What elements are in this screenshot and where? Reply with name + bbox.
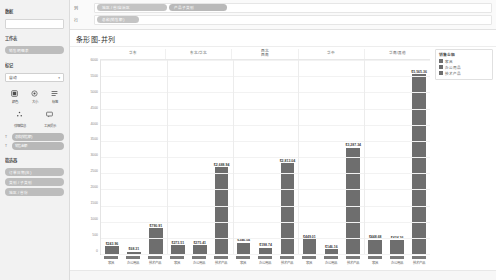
x-axis-label[interactable]: 办公用品 <box>320 255 342 268</box>
rows-shelf-track[interactable]: 总和(销售额) <box>94 15 492 25</box>
x-axis-label-swatch-icon <box>104 256 118 259</box>
gridline <box>101 60 430 61</box>
marks-type-value: 自动 <box>9 75 17 80</box>
marks-field-row[interactable]: T 总和(销售额) <box>5 133 64 141</box>
x-axis-label[interactable]: 办公用品 <box>386 255 408 268</box>
legend-title: 销售金额 <box>439 52 489 57</box>
filter-pill[interactable]: 地区 / 省份 <box>5 188 64 196</box>
x-axis-label[interactable]: 家具 <box>364 255 386 268</box>
gridline <box>101 254 430 255</box>
size-icon <box>30 89 39 98</box>
group-header[interactable]: 华中 <box>299 49 365 59</box>
y-axis-tick: 3000 <box>90 154 98 157</box>
x-axis-label[interactable]: 家具 <box>100 255 122 268</box>
x-axis: 家具办公用品技术产品家具办公用品技术产品家具办公用品技术产品家具办公用品技术产品… <box>100 254 430 268</box>
marks-button-tooltip[interactable] <box>35 109 64 120</box>
group-header[interactable]: 西北 西南 <box>232 49 298 59</box>
bar-value-label: $5,565.36 <box>411 70 427 74</box>
bar[interactable] <box>412 74 426 254</box>
x-axis-label-swatch-icon <box>214 256 228 259</box>
marks-button-size-label: 大小 <box>32 99 38 104</box>
plot-body: 6000550050004500400035003000250020001500… <box>74 60 430 254</box>
x-axis-label-text: 办公用品 <box>259 260 271 265</box>
bar[interactable] <box>281 163 295 254</box>
group-header[interactable]: 华东 <box>100 49 166 59</box>
marks-button-text[interactable]: 标签 <box>45 88 64 105</box>
x-axis-label[interactable]: 技术产品 <box>144 255 166 268</box>
bar-value-label: $146.16 <box>325 245 338 249</box>
bar[interactable] <box>215 167 229 254</box>
x-axis-label-swatch-icon <box>258 256 272 259</box>
group-header[interactable]: 东北/华北 <box>166 49 232 59</box>
filters-section-label: 筛选器 <box>5 157 64 163</box>
filter-pill[interactable]: 订单日期(年) <box>5 168 64 176</box>
chevron-down-icon: ▾ <box>58 76 60 80</box>
x-axis-label-text: 技术产品 <box>149 260 161 265</box>
marks-button-detail[interactable] <box>5 109 34 120</box>
x-axis-label[interactable]: 技术产品 <box>210 255 232 268</box>
legend-item[interactable]: 技术产品 <box>439 71 489 76</box>
marks-field-pill[interactable]: 销售金额 <box>12 142 64 150</box>
sheets-section-label: 工作表 <box>5 35 64 41</box>
bar[interactable] <box>390 240 404 254</box>
legend-item[interactable]: 家具 <box>439 59 489 64</box>
x-axis-label[interactable]: 办公用品 <box>254 255 276 268</box>
page-title: 条形图-并列 <box>76 34 490 44</box>
x-axis-label[interactable]: 家具 <box>298 255 320 268</box>
legend-swatch-icon <box>439 71 443 75</box>
x-axis-label[interactable]: 办公用品 <box>122 255 144 268</box>
y-axis-tick: 4500 <box>90 107 98 110</box>
gridline <box>101 109 430 110</box>
marks-button-color[interactable]: 颜色 <box>5 88 24 105</box>
filter-pill[interactable]: 类别 / 子类别 <box>5 178 64 186</box>
gridline <box>101 173 430 174</box>
bar-value-label: $2,813.04 <box>280 159 296 163</box>
columns-shelf-track[interactable]: 地区 / 省/自治区 产品子类别 <box>94 3 492 13</box>
field-type-tag: T <box>5 135 10 139</box>
marks-section-label: 标记 <box>5 62 64 68</box>
x-axis-label[interactable]: 家具 <box>232 255 254 268</box>
rows-shelf-pill[interactable]: 总和(销售额) <box>97 16 139 24</box>
marks-field-pill[interactable]: 总和(销售额) <box>12 133 64 141</box>
filter-pill-list: 订单日期(年) 类别 / 子类别 地区 / 省份 <box>5 168 64 198</box>
x-axis-label[interactable]: 技术产品 <box>276 255 298 268</box>
x-axis-label[interactable]: 技术产品 <box>342 255 364 268</box>
detail-icon <box>15 110 24 119</box>
x-axis-label[interactable]: 办公用品 <box>188 255 210 268</box>
data-section-label: 数据 <box>5 8 64 14</box>
x-axis-label-swatch-icon <box>302 256 316 259</box>
legend-items: 家具办公用品技术产品 <box>439 59 489 76</box>
y-axis-tick: 500 <box>92 234 98 237</box>
marks-type-select[interactable]: 自动 ▾ <box>5 73 64 82</box>
marks-field-row[interactable]: T 销售金额 <box>5 142 64 150</box>
x-axis-label-text: 办公用品 <box>325 260 337 265</box>
x-axis-label-text: 技术产品 <box>347 260 359 265</box>
x-axis-label-swatch-icon <box>170 256 184 259</box>
bar-value-label: $198.74 <box>259 243 272 247</box>
marks-button-size[interactable]: 大小 <box>25 88 44 105</box>
bar[interactable] <box>149 228 163 254</box>
bar-value-label: $2,688.94 <box>214 163 230 167</box>
x-axis-label[interactable]: 技术产品 <box>408 255 430 268</box>
bar[interactable] <box>105 246 119 254</box>
legend: 销售金额 家具办公用品技术产品 <box>435 49 493 80</box>
group-header[interactable]: 华南/其他 <box>365 49 430 59</box>
chart-canvas: 华东东北/华北西北 西南华中华南/其他 60005500500045004000… <box>70 47 496 270</box>
bar[interactable] <box>368 240 382 255</box>
x-axis-label[interactable]: 家具 <box>166 255 188 268</box>
bar[interactable] <box>303 239 317 254</box>
tooltip-icon <box>45 110 54 119</box>
sheet-pill[interactable]: 销售明细表 <box>5 46 64 54</box>
bar[interactable] <box>237 243 251 254</box>
bar[interactable] <box>193 245 207 254</box>
marks-button-tooltip-label: 工具提示 <box>35 123 64 128</box>
legend-swatch-icon <box>439 65 443 69</box>
legend-item[interactable]: 办公用品 <box>439 65 489 70</box>
data-source-box[interactable] <box>5 19 64 29</box>
rows-shelf: 行 总和(销售额) <box>74 14 492 25</box>
columns-shelf-pill[interactable]: 产品子类别 <box>169 4 227 12</box>
marks-button-color-label: 颜色 <box>12 99 18 104</box>
bar[interactable] <box>171 245 185 254</box>
columns-shelf-pill[interactable]: 地区 / 省/自治区 <box>97 4 167 12</box>
x-axis-label-text: 办公用品 <box>193 260 205 265</box>
